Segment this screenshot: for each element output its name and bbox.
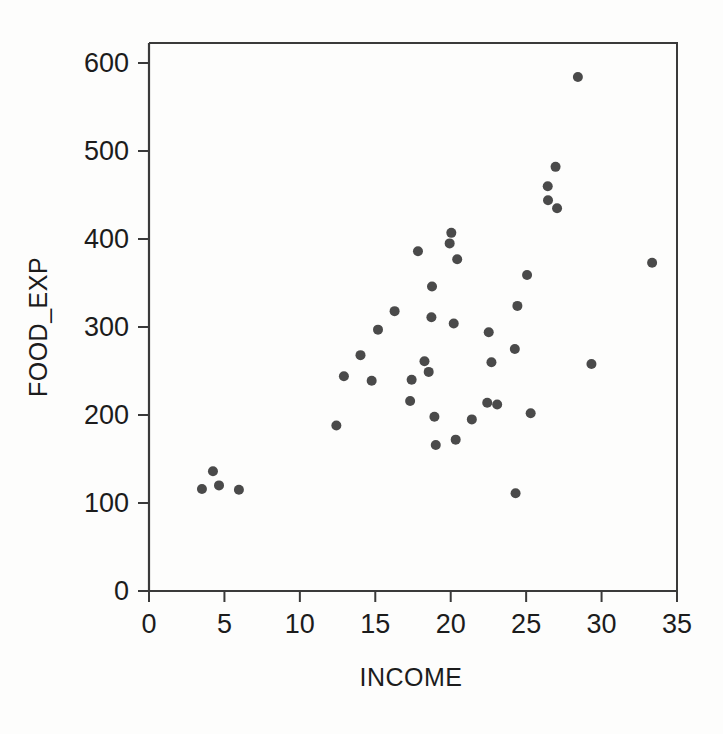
y-axis-title: FOOD_EXP xyxy=(24,257,52,397)
data-point xyxy=(208,466,218,476)
x-axis-title: INCOME xyxy=(360,663,463,691)
y-tick-label: 0 xyxy=(114,576,129,606)
data-point xyxy=(407,375,417,385)
x-tick-label: 30 xyxy=(587,609,617,639)
x-tick-label: 25 xyxy=(511,609,541,639)
y-tick-label: 500 xyxy=(84,136,129,166)
x-tick-label: 15 xyxy=(360,609,390,639)
data-point xyxy=(426,312,436,322)
data-point xyxy=(543,195,553,205)
y-tick-label: 100 xyxy=(84,488,129,518)
data-point xyxy=(647,258,657,268)
x-axis-ticks xyxy=(149,591,677,602)
x-tick-label: 10 xyxy=(285,609,315,639)
data-point xyxy=(331,421,341,431)
data-point xyxy=(449,318,459,328)
data-point xyxy=(452,254,462,264)
data-point xyxy=(429,412,439,422)
y-tick-label: 300 xyxy=(84,312,129,342)
data-point xyxy=(424,367,434,377)
data-point xyxy=(573,72,583,82)
data-point xyxy=(446,228,456,238)
scatter-plot-figure: 0100200300400500600 05101520253035 INCOM… xyxy=(0,0,723,734)
data-point xyxy=(512,301,522,311)
data-point xyxy=(234,485,244,495)
plot-frame xyxy=(149,43,677,591)
scatter-series xyxy=(197,72,657,498)
data-point xyxy=(551,162,561,172)
y-tick-label: 400 xyxy=(84,224,129,254)
data-point xyxy=(482,398,492,408)
x-axis-tick-labels: 05101520253035 xyxy=(141,609,692,639)
data-point xyxy=(427,282,437,292)
data-point xyxy=(197,484,207,494)
data-point xyxy=(339,371,349,381)
data-point xyxy=(484,327,494,337)
data-point xyxy=(214,480,224,490)
x-tick-label: 0 xyxy=(141,609,156,639)
data-point xyxy=(486,357,496,367)
x-tick-label: 35 xyxy=(662,609,692,639)
data-point xyxy=(431,440,441,450)
y-tick-label: 200 xyxy=(84,400,129,430)
x-tick-label: 5 xyxy=(217,609,232,639)
chart-canvas: 0100200300400500600 05101520253035 INCOM… xyxy=(0,0,723,734)
data-point xyxy=(445,238,455,248)
data-point xyxy=(356,350,366,360)
data-point xyxy=(390,306,400,316)
data-point xyxy=(492,399,502,409)
data-point xyxy=(511,488,521,498)
data-point xyxy=(419,356,429,366)
x-axis: 05101520253035 xyxy=(141,591,692,639)
data-point xyxy=(405,396,415,406)
x-tick-label: 20 xyxy=(436,609,466,639)
data-point xyxy=(552,203,562,213)
data-point xyxy=(467,414,477,424)
y-tick-label: 600 xyxy=(84,48,129,78)
data-point xyxy=(451,435,461,445)
data-point xyxy=(522,270,532,280)
y-axis-ticks xyxy=(138,63,149,591)
y-axis: 0100200300400500600 xyxy=(84,43,149,606)
y-axis-tick-labels: 0100200300400500600 xyxy=(84,48,129,606)
data-point xyxy=(367,376,377,386)
data-point xyxy=(373,325,383,335)
data-point xyxy=(510,344,520,354)
data-point xyxy=(413,246,423,256)
data-point xyxy=(526,408,536,418)
data-point xyxy=(543,181,553,191)
data-point xyxy=(586,359,596,369)
